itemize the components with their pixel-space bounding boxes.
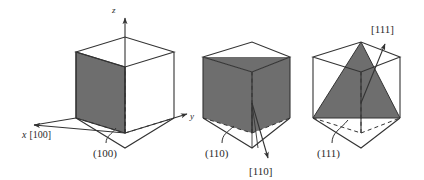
plane-100-leader <box>106 128 116 143</box>
plane-110-label: (110) <box>205 148 228 159</box>
plane-100-shaded-face <box>76 52 125 133</box>
z-axis-label: z <box>112 6 116 15</box>
x-axis-label: x <box>22 129 26 140</box>
y-axis <box>125 114 187 133</box>
plane-110-leader <box>222 126 234 143</box>
cube-100-group <box>34 18 187 148</box>
y-axis-label: y <box>190 112 194 121</box>
direction-110-label: [110] <box>249 166 272 177</box>
x-axis-segment <box>34 118 76 125</box>
x-direction-label: [100] <box>29 129 51 140</box>
cube-111-group <box>313 42 400 148</box>
x-axis-label-group: x[100] <box>22 130 51 140</box>
plane-100-label: (100) <box>93 148 117 159</box>
direction-111-label: [111] <box>371 24 394 35</box>
cube-110-group <box>203 42 290 158</box>
plane-111-label: (111) <box>317 148 340 159</box>
